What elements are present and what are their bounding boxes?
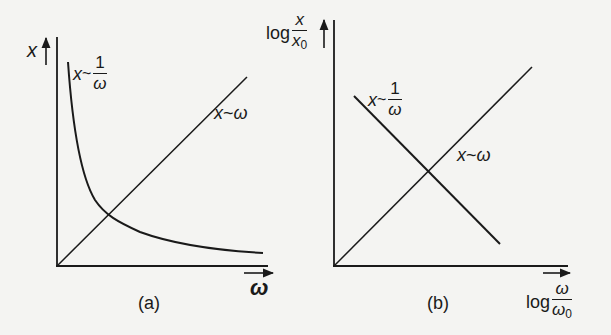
- panel-b-linear-curve-label: x~ω: [457, 146, 491, 164]
- denominator: x: [292, 31, 301, 50]
- log-prefix: log: [526, 292, 550, 312]
- panel-a-inverse-curve-label: x~ 1 ω: [73, 54, 107, 93]
- relation: ~: [223, 103, 234, 123]
- rhs: ω: [477, 145, 491, 165]
- panel-a-x-axis-label: ω: [250, 277, 268, 299]
- panel-b-caption: (b): [427, 294, 449, 312]
- relation: ~: [377, 91, 386, 108]
- panel-b-inverse-curve-label: x~ 1 ω: [368, 80, 402, 119]
- denominator: ω: [388, 101, 401, 119]
- lhs: x: [214, 103, 223, 123]
- numerator: 1: [390, 80, 399, 98]
- panel-b-plot: [324, 20, 570, 273]
- relation: ~: [82, 65, 91, 82]
- panel-a-y-axis-label: x: [27, 40, 37, 60]
- denominator-subscript: 0: [565, 307, 572, 321]
- denominator-subscript: 0: [301, 38, 308, 52]
- panel-b-y-axis-label: log x x0: [266, 11, 307, 54]
- lhs: x: [368, 90, 377, 110]
- numerator: x: [295, 11, 304, 29]
- lhs: x: [457, 145, 466, 165]
- panel-b-x-axis-label: log ω ω0: [526, 280, 572, 323]
- rhs: ω: [234, 103, 248, 123]
- panel-b-linear-curve: [334, 67, 532, 266]
- numerator: ω: [555, 280, 568, 298]
- lhs: x: [73, 64, 82, 84]
- log-prefix: log: [266, 23, 290, 43]
- numerator: 1: [95, 54, 104, 72]
- panel-a-caption: (a): [138, 294, 160, 312]
- relation: ~: [466, 145, 477, 165]
- panel-a-linear-curve-label: x~ω: [214, 104, 248, 122]
- denominator: ω: [552, 300, 565, 319]
- denominator: ω: [93, 75, 106, 93]
